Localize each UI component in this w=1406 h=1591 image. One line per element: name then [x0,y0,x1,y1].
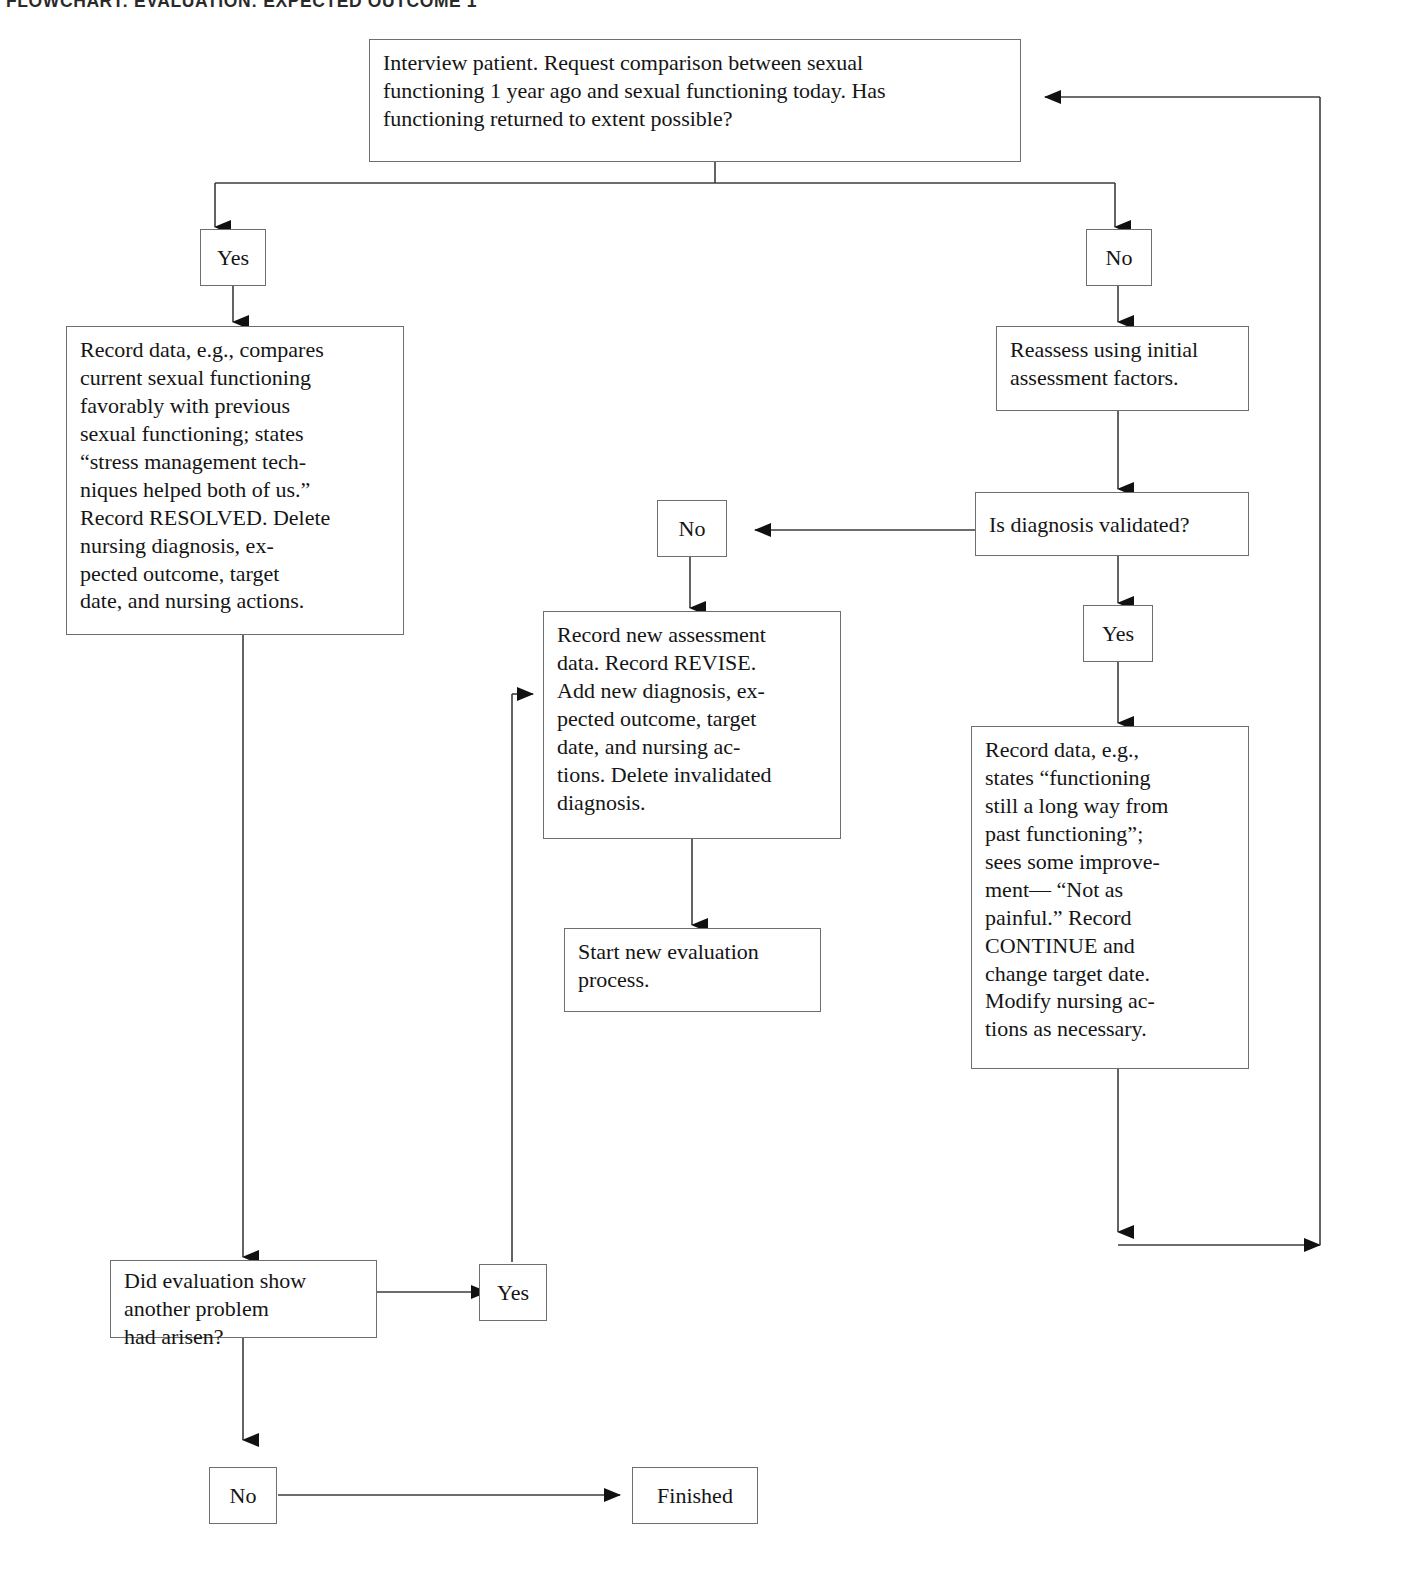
node-no-mid[interactable]: No [657,500,727,557]
node-reassess[interactable]: Reassess using initial assessment factor… [996,326,1249,411]
node-record-resolved-text: Record data, e.g., compares current sexu… [80,336,390,615]
node-start-new-evaluation[interactable]: Start new evaluation process. [564,928,821,1012]
node-yes-bottom[interactable]: Yes [479,1264,547,1321]
node-reassess-text: Reassess using initial assessment factor… [1010,336,1235,392]
node-no-bottom-text: No [230,1482,257,1510]
node-yes-mid[interactable]: Yes [1083,605,1153,662]
node-no-mid-text: No [679,515,706,543]
node-yes-top-text: Yes [217,244,249,272]
node-finished[interactable]: Finished [632,1467,758,1524]
node-interview-text: Interview patient. Request comparison be… [383,49,1007,133]
node-no-top-text: No [1106,244,1133,272]
node-start-new-evaluation-text: Start new evaluation process. [578,938,807,994]
node-no-top[interactable]: No [1086,229,1152,286]
node-yes-mid-text: Yes [1102,620,1134,648]
node-yes-top[interactable]: Yes [200,229,266,286]
node-another-problem[interactable]: Did evaluation show another problem had … [110,1260,377,1338]
node-is-diagnosis-validated[interactable]: Is diagnosis validated? [975,492,1249,556]
node-record-revise[interactable]: Record new assessment data. Record REVIS… [543,611,841,839]
node-record-resolved[interactable]: Record data, e.g., compares current sexu… [66,326,404,635]
node-finished-text: Finished [657,1482,733,1510]
node-interview[interactable]: Interview patient. Request comparison be… [369,39,1021,162]
node-another-problem-text: Did evaluation show another problem had … [124,1267,363,1351]
node-record-revise-text: Record new assessment data. Record REVIS… [557,621,827,817]
node-yes-bottom-text: Yes [497,1279,529,1307]
node-no-bottom[interactable]: No [209,1467,277,1524]
node-record-continue-text: Record data, e.g., states “functioning s… [985,736,1235,1043]
node-is-diagnosis-validated-text: Is diagnosis validated? [989,511,1189,539]
node-record-continue[interactable]: Record data, e.g., states “functioning s… [971,726,1249,1069]
page-title: FLOWCHART: EVALUATION: EXPECTED OUTCOME … [6,0,477,12]
flowchart-canvas: FLOWCHART: EVALUATION: EXPECTED OUTCOME … [0,0,1406,1591]
